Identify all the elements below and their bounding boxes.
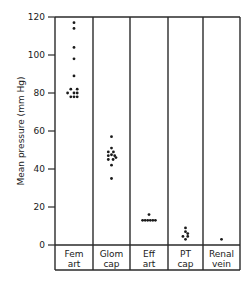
data-point [73,21,76,24]
y-axis-label: Mean pressure (mm Hg) [16,76,26,185]
data-point [110,177,113,180]
data-point [76,95,79,98]
data-point [110,147,113,150]
data-point [184,230,187,233]
y-tick-label: 40 [34,164,46,174]
data-point [73,46,76,49]
data-point [186,235,189,238]
category-label: cap [103,259,119,269]
data-point [146,219,149,222]
data-point [107,158,110,161]
data-point [69,95,72,98]
data-point [107,151,110,154]
data-point [220,238,223,241]
category-label: Renal [209,249,234,259]
category-label: Eff [143,249,156,259]
data-point [151,219,154,222]
data-point [73,57,76,60]
data-point [144,219,147,222]
data-point [73,75,76,78]
data-point [73,95,76,98]
y-tick-label: 80 [34,88,46,98]
data-point [186,232,189,235]
data-point [112,158,115,161]
y-tick-label: 0 [39,240,45,250]
y-tick-label: 120 [28,12,45,22]
y-tick-label: 100 [28,50,45,60]
scatter-chart: 020406080100120Mean pressure (mm Hg)Fema… [0,0,252,282]
y-tick-label: 60 [34,126,46,136]
data-point [110,164,113,167]
data-point [154,219,157,222]
category-label: Fem [65,249,84,259]
data-point [148,213,151,216]
category-label: art [143,259,156,269]
data-point [76,88,79,91]
data-point [112,151,115,154]
data-point [69,88,72,91]
data-point [73,92,76,95]
data-point [66,92,69,95]
data-point [76,92,79,95]
category-label: PT [180,249,191,259]
data-point [184,238,187,241]
y-tick-label: 20 [34,202,46,212]
data-point [107,154,110,157]
category-label: Glom [100,249,124,259]
category-label: art [68,259,81,269]
data-point [115,156,118,159]
data-point [73,27,76,30]
data-point [184,227,187,230]
category-label: cap [177,259,193,269]
data-point [110,135,113,138]
data-point [182,235,185,238]
data-point [141,219,144,222]
category-label: vein [212,259,231,269]
data-point [149,219,152,222]
data-point [110,153,113,156]
